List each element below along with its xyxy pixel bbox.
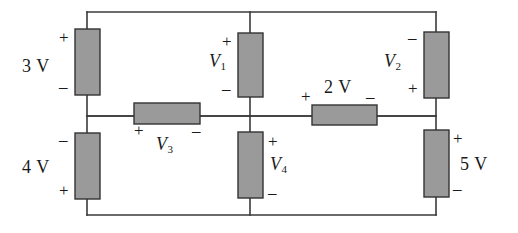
source-5v-minus-sign: – — [453, 180, 462, 197]
element-v4-minus-sign: – — [268, 184, 277, 201]
source-3v-plus-sign: + — [59, 29, 69, 46]
element-v4-label: V4 — [270, 155, 287, 175]
resistor-v3-body — [134, 103, 200, 124]
resistor-5v-body — [424, 130, 449, 197]
element-v3-label: V3 — [156, 135, 173, 155]
element-v1-label: V1 — [209, 52, 226, 72]
source-2v-plus-sign: + — [301, 88, 311, 105]
source-2v-minus-sign: – — [366, 88, 375, 105]
source-3v-label: 3 V — [22, 57, 50, 75]
resistor-3v-body — [75, 29, 100, 95]
resistor-v2-body — [424, 32, 449, 98]
resistor-2v-body — [312, 105, 377, 125]
source-5v-plus-sign: + — [453, 130, 463, 147]
element-v3-minus-sign: – — [192, 122, 201, 139]
source-4v-plus-sign: + — [59, 182, 69, 199]
source-4v-minus-sign: – — [59, 131, 68, 148]
resistor-v1-body — [238, 33, 263, 97]
source-3v-minus-sign: – — [59, 78, 68, 95]
source-2v-label: 2 V — [324, 78, 352, 96]
resistor-4v-body — [75, 133, 100, 199]
element-v1-plus-sign: + — [222, 33, 232, 50]
source-4v-label: 4 V — [22, 158, 50, 176]
element-v2-label: V2 — [384, 52, 401, 72]
element-v3-plus-sign: + — [134, 122, 144, 139]
circuit-diagram: 3 V + – V1 + – V2 – + 2 V + – V3 + – 4 V… — [0, 0, 518, 233]
element-v2-plus-sign: + — [408, 80, 418, 97]
element-v4-plus-sign: + — [268, 133, 278, 150]
source-5v-label: 5 V — [460, 155, 488, 173]
element-v1-minus-sign: – — [222, 80, 231, 97]
element-v2-minus-sign: – — [408, 29, 417, 46]
circuit-schematic-canvas — [0, 0, 518, 233]
resistor-v4-body — [238, 132, 263, 198]
